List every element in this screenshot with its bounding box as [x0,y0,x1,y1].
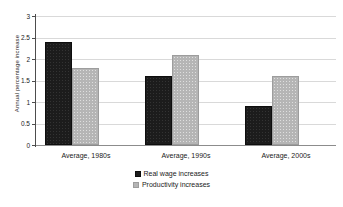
y-tick-label: 1 [2,99,30,106]
plot-area [36,16,336,145]
y-tick-mark [32,16,36,17]
y-tick-label: 2 [2,56,30,63]
y-tick-label: 1.5 [2,77,30,84]
y-tick-mark [32,81,36,82]
y-tick-label: 3 [2,13,30,20]
y-tick-mark [32,124,36,125]
bar-chart: Annual percentage increase Real wage inc… [0,0,343,207]
y-tick-label: 0 [2,142,30,149]
legend-swatch-icon-productivity [133,182,139,188]
gridline [36,38,336,39]
y-tick-mark [32,59,36,60]
y-tick-mark [32,102,36,103]
y-tick-label: 0.5 [2,120,30,127]
legend-item-real-wage-increases: Real wage increases [135,170,209,178]
bar-real-wage-1 [145,76,172,145]
bar-productivity-1 [172,55,199,145]
gridline [36,16,336,17]
x-category-label: Average, 2000s [236,152,336,159]
legend-label-productivity: Productivity increases [142,181,210,189]
legend-swatch-icon-real-wage [135,171,141,177]
x-category-label: Average, 1980s [36,152,136,159]
y-tick-mark [32,145,36,146]
bar-productivity-0 [72,68,99,145]
bar-real-wage-0 [45,42,72,145]
bar-real-wage-2 [245,106,272,145]
chart-legend: Real wage increases Productivity increas… [0,170,343,189]
gridline [36,145,336,146]
y-tick-label: 2.5 [2,34,30,41]
y-tick-mark [32,38,36,39]
legend-item-productivity-increases: Productivity increases [133,181,210,189]
legend-label-real-wage: Real wage increases [144,170,209,178]
x-category-label: Average, 1990s [136,152,236,159]
bar-productivity-2 [272,76,299,145]
